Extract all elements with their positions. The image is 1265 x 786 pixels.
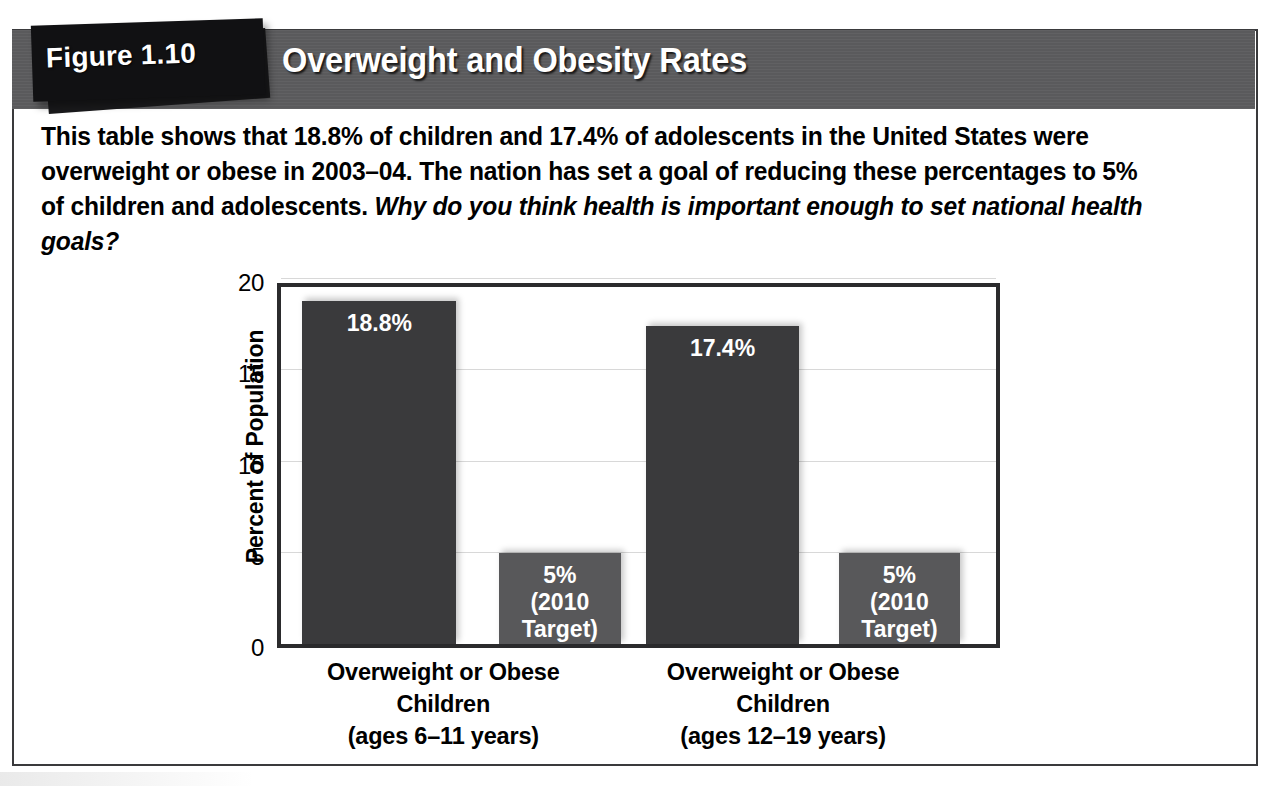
x-axis-category-label: Overweight or Obese Children (ages 12–19… (618, 656, 948, 752)
x-axis-labels: Overweight or Obese Children (ages 6–11 … (277, 656, 1000, 760)
bar-value-label: 17.4% (646, 335, 800, 362)
y-tick-label: 5 (212, 543, 264, 571)
scan-edge-artifact (0, 772, 300, 786)
bar: 18.8% (302, 301, 456, 644)
bar-value-label: 5% (2010 Target) (839, 562, 961, 643)
y-tick-label: 0 (212, 634, 264, 662)
x-axis-category-label: Overweight or Obese Children (ages 6–11 … (278, 656, 608, 752)
bar: 5% (2010 Target) (839, 553, 961, 644)
plot-area: 18.8%5% (2010 Target)17.4%5% (2010 Targe… (277, 283, 1000, 648)
bar: 17.4% (646, 326, 800, 644)
plot-inner: 18.8%5% (2010 Target)17.4%5% (2010 Targe… (281, 287, 996, 644)
bar: 5% (2010 Target) (499, 553, 621, 644)
y-tick-label: 15 (212, 360, 264, 388)
figure-title: Overweight and Obesity Rates (282, 40, 747, 80)
y-tick-label: 10 (212, 452, 264, 480)
y-tick-label: 20 (212, 269, 264, 297)
bar-value-label: 5% (2010 Target) (499, 562, 621, 643)
figure-page: Figure 1.10 Overweight and Obesity Rates… (0, 0, 1265, 786)
bar-value-label: 18.8% (302, 310, 456, 337)
gridline (281, 278, 996, 279)
y-axis-ticks: 05101520 (212, 270, 264, 648)
bar-chart: Percent of Population 05101520 18.8%5% (… (188, 270, 1018, 760)
figure-caption: This table shows that 18.8% of children … (41, 119, 1160, 259)
